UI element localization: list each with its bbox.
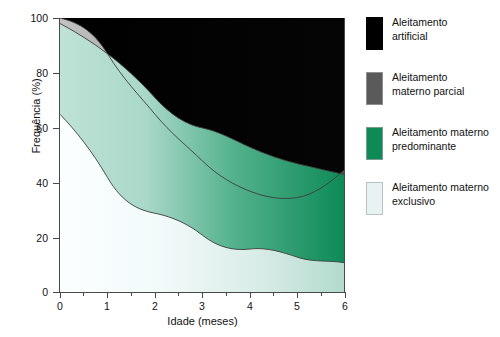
x-tick-label-0: 0 — [48, 300, 72, 312]
y-tick-80 — [53, 73, 59, 74]
chart-figure: 100 80 60 40 20 0 0 1 2 3 4 5 6 Frequênc… — [0, 0, 500, 337]
x-minor-tick-0-5 — [83, 293, 84, 296]
legend-label-aleitamento-artificial: Aleitamento artificial — [392, 16, 447, 43]
y-tick-20 — [53, 238, 59, 239]
y-tick-label-20: 20 — [8, 233, 48, 244]
x-minor-tick-5-5 — [321, 293, 322, 296]
y-tick-label-0: 0 — [8, 287, 48, 298]
x-tick-2 — [155, 293, 156, 298]
y-tick-0 — [53, 292, 59, 293]
legend-swatch-aleitamento-artificial — [366, 17, 383, 50]
y-tick-label-40: 40 — [8, 178, 48, 189]
x-tick-label-3: 3 — [190, 300, 214, 312]
x-tick-5 — [297, 293, 298, 298]
x-tick-0 — [60, 293, 61, 298]
x-axis-title: Idade (meses) — [59, 315, 346, 327]
x-tick-label-1: 1 — [95, 300, 119, 312]
x-tick-4 — [250, 293, 251, 298]
y-tick-40 — [53, 183, 59, 184]
x-tick-label-2: 2 — [143, 300, 167, 312]
x-tick-label-6: 6 — [333, 300, 357, 312]
legend-label-aleitamento-materno-predominante: Aleitamento materno predominante — [392, 126, 489, 153]
x-minor-tick-2-5 — [178, 293, 179, 296]
x-tick-6 — [345, 293, 346, 298]
stacked-area-svg — [60, 18, 345, 293]
y-axis-line — [59, 18, 60, 293]
legend-swatch-aleitamento-materno-exclusivo — [366, 182, 383, 215]
chart-legend: Aleitamento artificial Aleitamento mater… — [366, 16, 498, 236]
plot-area — [60, 18, 345, 293]
legend-item-aleitamento-artificial: Aleitamento artificial — [366, 16, 498, 50]
legend-label-aleitamento-materno-parcial: Aleitamento materno parcial — [392, 71, 464, 98]
x-minor-tick-4-5 — [273, 293, 274, 296]
x-tick-label-5: 5 — [285, 300, 309, 312]
y-axis-title: Frequência (%) — [30, 46, 42, 186]
y-tick-label-60: 60 — [8, 123, 48, 134]
x-minor-tick-3-5 — [226, 293, 227, 296]
legend-item-aleitamento-materno-parcial: Aleitamento materno parcial — [366, 71, 498, 105]
y-tick-label-100: 100 — [8, 13, 48, 24]
x-tick-3 — [202, 293, 203, 298]
x-tick-label-4: 4 — [238, 300, 262, 312]
legend-swatch-aleitamento-materno-predominante — [366, 127, 383, 160]
legend-swatch-aleitamento-materno-parcial — [366, 72, 383, 105]
y-tick-label-80: 80 — [8, 68, 48, 79]
x-tick-1 — [107, 293, 108, 298]
legend-item-aleitamento-materno-predominante: Aleitamento materno predominante — [366, 126, 498, 160]
x-minor-tick-1-5 — [131, 293, 132, 296]
legend-item-aleitamento-materno-exclusivo: Aleitamento materno exclusivo — [366, 181, 498, 215]
y-tick-100 — [53, 18, 59, 19]
y-tick-60 — [53, 128, 59, 129]
legend-label-aleitamento-materno-exclusivo: Aleitamento materno exclusivo — [392, 181, 489, 208]
